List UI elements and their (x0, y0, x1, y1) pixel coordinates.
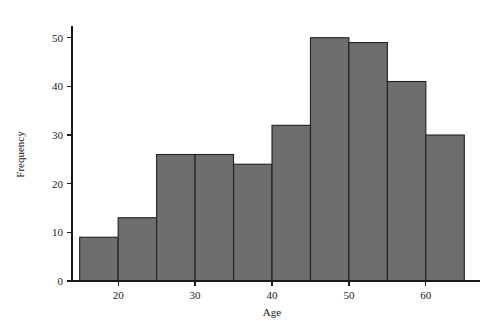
histogram-bar (80, 237, 118, 281)
histogram-bar (310, 38, 348, 281)
histogram-bar (195, 155, 233, 282)
y-tick-label: 0 (58, 275, 64, 287)
x-tick-label: 50 (343, 289, 355, 301)
y-tick-label: 30 (52, 129, 64, 141)
histogram-bar (387, 82, 425, 281)
y-tick-label: 40 (52, 80, 64, 92)
histogram-bar (118, 218, 156, 281)
y-tick-label: 10 (52, 226, 64, 238)
x-tick-label: 40 (267, 289, 279, 301)
x-tick-label: 20 (113, 289, 125, 301)
histogram-bar (272, 125, 310, 281)
histogram-bar (157, 155, 195, 282)
x-tick-label: 30 (190, 289, 202, 301)
histogram-plot: 010203040502030405060AgeFrequency (0, 0, 490, 331)
y-tick-label: 50 (52, 32, 64, 44)
histogram-bar (349, 43, 387, 281)
histogram-figure: 010203040502030405060AgeFrequency (0, 0, 490, 331)
y-tick-label: 20 (52, 178, 64, 190)
x-tick-label: 60 (420, 289, 432, 301)
y-axis-title: Frequency (14, 131, 26, 178)
histogram-bar (234, 164, 272, 281)
histogram-bar (426, 135, 464, 281)
x-axis-title: Age (263, 306, 281, 318)
